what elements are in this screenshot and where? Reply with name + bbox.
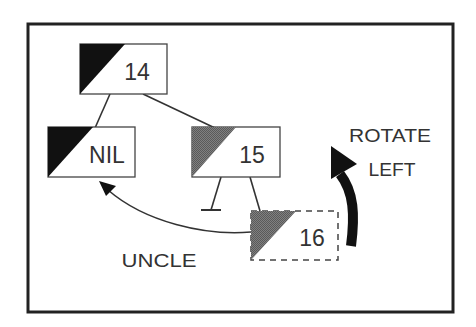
rotate-label-line1: ROTATE xyxy=(349,125,431,146)
rotate-label-line2: LEFT xyxy=(369,159,416,180)
node-15: 15 xyxy=(192,127,280,177)
node-nil: NIL xyxy=(48,127,135,177)
uncle-label: UNCLE xyxy=(122,250,197,271)
node-14: 14 xyxy=(80,44,167,94)
node-label: 16 xyxy=(299,225,325,251)
node-label: 15 xyxy=(239,142,265,168)
node-label: 14 xyxy=(124,59,150,85)
node-16: 16 xyxy=(251,211,338,260)
node-label: NIL xyxy=(89,142,125,168)
tree-rotation-diagram: 14 NIL 15 16 UNCLE ROTATE LEFT xyxy=(0,0,476,327)
